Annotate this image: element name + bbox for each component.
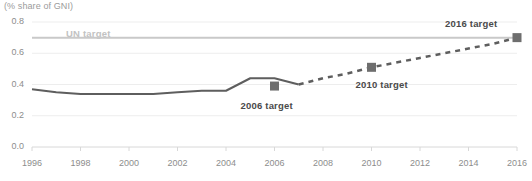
chart-svg — [32, 22, 517, 147]
y-axis-tick-label: 0.8 — [2, 16, 24, 26]
x-axis-tick-label: 2006 — [255, 158, 295, 168]
series-line-projection — [299, 38, 517, 85]
plot-area — [32, 22, 517, 147]
x-axis-tick-label: 2014 — [449, 158, 489, 168]
target-annotation-label: 2010 target — [356, 79, 408, 90]
x-axis-tick-label: 2016 — [497, 158, 532, 168]
target-annotation-label: 2016 target — [445, 18, 497, 29]
target-marker — [270, 82, 279, 91]
y-axis-tick-label: 0.2 — [2, 110, 24, 120]
x-axis-tick-label: 2008 — [303, 158, 343, 168]
y-axis-tick-label: 0.6 — [2, 47, 24, 57]
y-axis-tick-label: 0.4 — [2, 79, 24, 89]
x-axis-tick-label: 2002 — [158, 158, 198, 168]
series-line-actual — [32, 78, 299, 94]
target-marker — [367, 63, 376, 72]
x-axis-tick-label: 1998 — [61, 158, 101, 168]
target-marker — [513, 33, 522, 42]
target-annotation-label: 2006 target — [241, 100, 293, 111]
x-axis-tick-label: 1996 — [12, 158, 52, 168]
x-axis-tick-label: 2004 — [206, 158, 246, 168]
x-axis-tick-label: 2010 — [352, 158, 392, 168]
y-axis-tick-label: 0.0 — [2, 141, 24, 151]
x-axis-tick-label: 2012 — [400, 158, 440, 168]
chart-axis-title: (% share of GNI) — [4, 1, 73, 11]
x-axis-tick-label: 2000 — [109, 158, 149, 168]
